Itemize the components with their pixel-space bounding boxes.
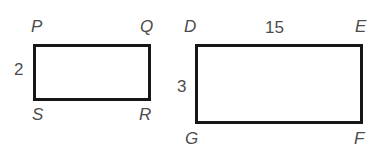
vertex-label-g: G xyxy=(185,130,198,147)
side-length-label-defg-width: 15 xyxy=(265,19,284,36)
rectangle-defg xyxy=(195,44,363,124)
vertex-label-f: F xyxy=(354,130,364,147)
vertex-label-d: D xyxy=(184,18,196,35)
side-length-label-pqrs-height: 2 xyxy=(14,61,23,78)
vertex-label-s: S xyxy=(32,106,43,123)
vertex-label-e: E xyxy=(355,18,366,35)
vertex-label-p: P xyxy=(31,18,42,35)
side-length-label-defg-height: 3 xyxy=(177,78,186,95)
geometry-figure: P Q S R 2 D E G F 15 3 xyxy=(0,0,388,156)
rectangle-pqrs xyxy=(33,44,151,101)
vertex-label-r: R xyxy=(139,106,151,123)
vertex-label-q: Q xyxy=(140,18,153,35)
